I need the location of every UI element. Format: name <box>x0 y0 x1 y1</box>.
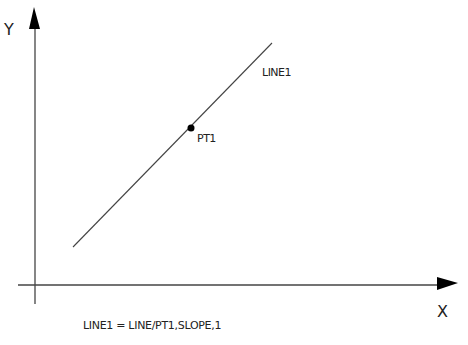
line1 <box>73 43 272 247</box>
pt1-label: PT1 <box>197 132 216 145</box>
y-axis-arrow-icon <box>29 7 40 29</box>
x-axis <box>18 277 458 290</box>
pt1-point-icon <box>188 125 195 132</box>
y-axis <box>29 7 40 304</box>
x-axis-arrow-icon <box>437 277 458 290</box>
x-axis-label: X <box>437 302 448 321</box>
line1-label: LINE1 <box>262 66 291 79</box>
y-axis-label: Y <box>3 20 14 39</box>
definition-caption: LINE1 = LINE/PT1,SLOPE,1 <box>83 319 221 332</box>
diagram-canvas: Y X LINE1 PT1 LINE1 = LINE/PT1,SLOPE,1 <box>0 0 468 345</box>
